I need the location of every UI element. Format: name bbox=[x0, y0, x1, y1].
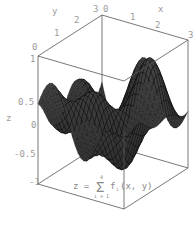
z-tick-neg0.5: -0.5 bbox=[14, 149, 36, 159]
svg-text:i = 1: i = 1 bbox=[94, 193, 109, 199]
formula-annotation: z = Σ 4 i = 1 f i (x, y) bbox=[73, 174, 153, 199]
z-tick-1: 1 bbox=[30, 54, 35, 64]
z-tick-0.5: 0.5 bbox=[18, 97, 34, 107]
svg-text:z =: z = bbox=[73, 181, 90, 191]
surface-plot: y 0 1 2 3 0 1 x 2 3 1 0.5 z 0 -0.5 -1 z … bbox=[0, 0, 196, 233]
x-axis-title: x bbox=[158, 4, 164, 14]
x-tick-1: 1 bbox=[130, 12, 135, 22]
surface-mesh bbox=[38, 57, 188, 169]
svg-text:f: f bbox=[110, 181, 115, 191]
y-tick-0: 0 bbox=[32, 42, 37, 52]
z-axis-title: z bbox=[6, 113, 11, 123]
svg-text:i: i bbox=[116, 186, 119, 192]
svg-text:4: 4 bbox=[100, 174, 103, 180]
z-tick-0: 0 bbox=[31, 120, 36, 130]
y-tick-2: 2 bbox=[74, 15, 79, 25]
x-tick-2: 2 bbox=[155, 20, 160, 30]
x-tick-0: 0 bbox=[103, 4, 108, 14]
y-tick-3: 3 bbox=[93, 4, 98, 14]
x-tick-3: 3 bbox=[188, 30, 193, 40]
svg-text:(x, y): (x, y) bbox=[120, 181, 153, 191]
z-tick-neg1: -1 bbox=[29, 177, 40, 187]
y-tick-1: 1 bbox=[54, 28, 59, 38]
y-axis-title: y bbox=[52, 6, 58, 16]
